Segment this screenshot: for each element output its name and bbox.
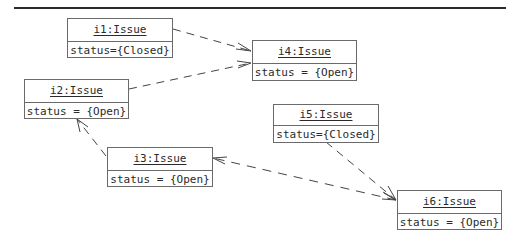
object-i1[interactable]: i1:Issue status={Closed} <box>67 18 173 58</box>
link-i5-i6 <box>326 142 396 200</box>
object-i3[interactable]: i3:Issue status = {Open} <box>107 147 213 187</box>
object-name: i4:Issue <box>253 41 356 64</box>
object-name: i6:Issue <box>398 191 501 214</box>
object-name: i1:Issue <box>68 19 172 42</box>
link-i3-i2 <box>77 119 106 156</box>
arrowhead-icon <box>236 43 251 51</box>
link-i2-i4 <box>129 63 251 89</box>
object-name: i2:Issue <box>25 80 128 103</box>
link-i1-i4 <box>173 29 251 51</box>
object-attribute: status = {Open} <box>253 64 356 81</box>
object-attribute: status = {Open} <box>108 171 212 188</box>
arrowhead-icon <box>213 157 227 164</box>
object-attribute: status = {Open} <box>25 103 128 120</box>
object-attribute: status={Closed} <box>68 42 172 59</box>
object-i6[interactable]: i6:Issue status = {Open} <box>397 190 502 230</box>
link-i6-i3 <box>213 158 396 200</box>
object-name: i5:Issue <box>274 105 378 126</box>
object-i2[interactable]: i2:Issue status = {Open} <box>24 79 129 119</box>
object-name: i3:Issue <box>108 148 212 171</box>
object-i4[interactable]: i4:Issue status = {Open} <box>252 40 357 81</box>
object-attribute: status={Closed} <box>274 126 378 143</box>
object-attribute: status = {Open} <box>398 214 501 231</box>
object-i5[interactable]: i5:Issue status={Closed} <box>273 104 379 143</box>
